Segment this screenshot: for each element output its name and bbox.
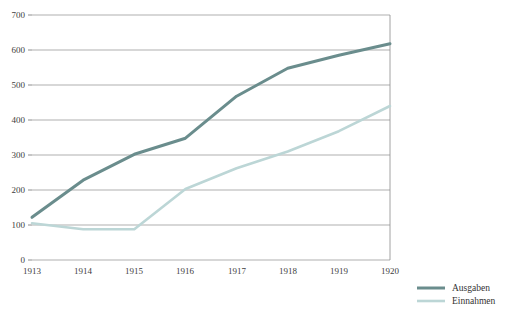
series-line-ausgaben <box>32 44 390 218</box>
y-tick-label-400: 400 <box>12 115 26 125</box>
x-tick-label-1916: 1916 <box>176 266 195 276</box>
y-tick-label-600: 600 <box>12 45 26 55</box>
x-tick-label-1920: 1920 <box>381 266 400 276</box>
series-group <box>32 44 390 230</box>
series-line-einnahmen <box>32 106 390 229</box>
y-tick-label-700: 700 <box>12 10 26 20</box>
x-tick-label-1917: 1917 <box>228 266 247 276</box>
legend-label-einnahmen: Einnahmen <box>452 296 496 306</box>
y-tick-label-0: 0 <box>21 255 26 265</box>
x-tick-label-1918: 1918 <box>279 266 298 276</box>
y-tick-label-200: 200 <box>12 185 26 195</box>
x-tick-label-1914: 1914 <box>74 266 93 276</box>
y-tick-label-500: 500 <box>12 80 26 90</box>
line-chart: 700 600 500 400 300 200 100 0 1913 1914 … <box>0 0 510 311</box>
chart-canvas: 700 600 500 400 300 200 100 0 1913 1914 … <box>0 0 510 311</box>
x-axis-labels: 1913 1914 1915 1916 1917 1918 1919 1920 <box>23 266 400 276</box>
x-tick-label-1913: 1913 <box>23 266 42 276</box>
y-tick-label-100: 100 <box>12 220 26 230</box>
legend-label-ausgaben: Ausgaben <box>452 283 490 293</box>
x-tick-label-1915: 1915 <box>125 266 144 276</box>
y-axis-labels: 700 600 500 400 300 200 100 0 <box>12 10 26 265</box>
gridlines-group <box>32 15 390 260</box>
y-tick-label-300: 300 <box>12 150 26 160</box>
legend: Ausgaben Einnahmen <box>417 283 496 306</box>
x-tick-label-1919: 1919 <box>330 266 349 276</box>
